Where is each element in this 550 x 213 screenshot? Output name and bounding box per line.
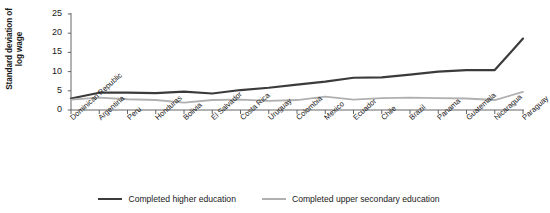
legend-swatch-icon [262, 198, 286, 200]
legend-swatch-icon [98, 198, 122, 200]
legend-label: Completed higher education [128, 194, 236, 204]
y-tick-label: 15 [40, 47, 62, 56]
y-tick-label: 25 [40, 9, 62, 18]
y-tick-label: 0 [40, 105, 62, 114]
y-tick-label: 5 [40, 86, 62, 95]
chart-legend: Completed higher education Completed upp… [0, 189, 538, 209]
legend-item-higher-education: Completed higher education [98, 194, 236, 204]
legend-label: Completed upper secondary education [292, 194, 440, 204]
y-tick-label: 20 [40, 28, 62, 37]
series-line-0 [71, 39, 523, 99]
legend-item-upper-secondary-education: Completed upper secondary education [262, 194, 440, 204]
y-tick-label: 10 [40, 67, 62, 76]
series-lines [71, 39, 523, 103]
